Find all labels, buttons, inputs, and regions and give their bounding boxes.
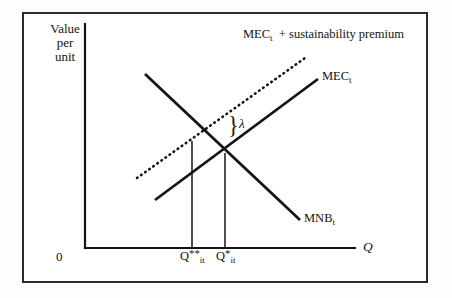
figure-container: Value per unit 0 Q MECt + sustainability… (0, 0, 452, 298)
lambda-brace: } (228, 112, 239, 137)
mec-curve-label: MECt (322, 70, 352, 84)
q-star-sub: it (230, 255, 235, 265)
mnb-label-main: MNB (304, 211, 332, 225)
q-star-tick-label: Q*it (216, 250, 235, 264)
mnb-label-sub: t (332, 217, 335, 227)
mnb-curve-label: MNBt (304, 212, 335, 226)
mec-label-sub: t (349, 75, 352, 85)
q-star-main: Q (216, 249, 225, 263)
q-double-star-tick-label: Q**it (180, 250, 205, 264)
origin-label: 0 (56, 250, 63, 264)
mec-premium-label-sub: t (270, 33, 273, 43)
y-axis-label-line-2: per (36, 36, 94, 50)
y-axis-label: Value per unit (36, 22, 94, 64)
y-axis-label-line-1: Value (36, 22, 94, 36)
y-axis-label-line-3: unit (36, 50, 94, 64)
q-double-star-main: Q (180, 249, 189, 263)
mec-premium-curve (137, 58, 305, 178)
mec-label-main: MEC (322, 69, 349, 83)
q-double-star-sub: it (200, 255, 205, 265)
mnb-curve (145, 74, 300, 220)
q-double-star-sup: ** (189, 247, 200, 259)
mec-curve (155, 79, 318, 200)
lambda-symbol: λ (239, 117, 245, 131)
mec-premium-label-main: MEC (243, 27, 270, 41)
mec-premium-label-suffix: + sustainability premium (279, 27, 404, 41)
x-axis-label: Q (363, 240, 373, 255)
mec-premium-curve-label: MECt + sustainability premium (243, 28, 404, 42)
